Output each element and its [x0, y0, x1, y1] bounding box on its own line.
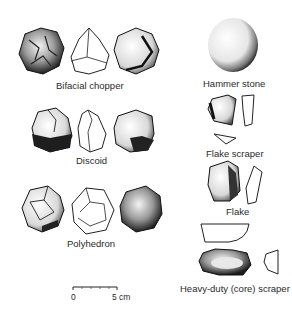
heavy-duty-scraper-side-drawing — [262, 248, 280, 276]
bifacial-chopper-profile-drawing — [69, 27, 113, 75]
polyhedron-face-b-drawing — [118, 186, 162, 234]
bifacial-chopper-face-a-drawing — [17, 26, 65, 76]
flake-face-drawing — [206, 161, 242, 203]
flake-scraper-face-drawing — [206, 93, 238, 129]
flake-scraper-label: Flake scraper — [206, 148, 264, 159]
scale-bar-start-label: 0 — [71, 292, 76, 302]
discoid-label: Discoid — [76, 155, 107, 166]
heavy-duty-scraper-face-drawing — [197, 247, 253, 277]
heavy-duty-scraper-top-drawing — [199, 222, 251, 244]
scale-bar-end-label: 5 cm — [112, 292, 130, 302]
heavy-duty-scraper-label: Heavy-duty (core) scraper — [180, 283, 290, 294]
flake-side-drawing — [244, 164, 264, 206]
bifacial-chopper-label: Bifacial chopper — [56, 80, 124, 91]
polyhedron-face-a-drawing — [20, 186, 66, 234]
bifacial-chopper-face-b-drawing — [112, 26, 160, 76]
flake-scraper-section-drawing — [212, 132, 238, 146]
hammer-stone-label: Hammer stone — [203, 78, 265, 89]
discoid-profile-drawing — [76, 108, 108, 154]
discoid-face-b-drawing — [112, 108, 156, 154]
discoid-face-a-drawing — [30, 108, 72, 154]
polyhedron-profile-drawing — [70, 186, 116, 236]
hammer-stone-drawing — [206, 16, 260, 74]
polyhedron-label: Polyhedron — [67, 238, 115, 249]
flake-scraper-side-drawing — [240, 94, 256, 130]
flake-label: Flake — [226, 206, 249, 217]
